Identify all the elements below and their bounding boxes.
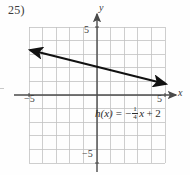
equation-negative-sign: − <box>125 108 131 119</box>
plot-line-hx <box>30 50 166 84</box>
coordinate-graph: 5 −5 −5 5 y x <box>0 0 190 175</box>
equation-constant: 2 <box>155 108 161 119</box>
y-axis-tick-label-positive: 5 <box>84 24 89 35</box>
function-equation-label: h(x) = − 1 4 x + 2 <box>95 106 161 122</box>
graph-svg <box>0 0 190 175</box>
fraction-numerator: 1 <box>132 106 138 113</box>
y-axis-name-label: y <box>99 2 103 13</box>
equation-plus-sign: + <box>147 108 153 119</box>
x-axis-tick-label-negative: −5 <box>24 93 35 104</box>
fraction-denominator: 4 <box>132 114 138 121</box>
equation-variable: x <box>139 108 144 119</box>
equation-function-name: h(x) <box>95 108 113 119</box>
worksheet-problem-page: 25) <box>0 0 190 175</box>
x-axis-name-label: x <box>178 87 182 98</box>
equation-fraction: 1 4 <box>132 106 138 122</box>
y-axis-tick-label-negative: −5 <box>82 148 93 159</box>
x-axis-tick-label-positive: 5 <box>157 93 162 104</box>
equation-equals-sign: = <box>116 108 122 119</box>
